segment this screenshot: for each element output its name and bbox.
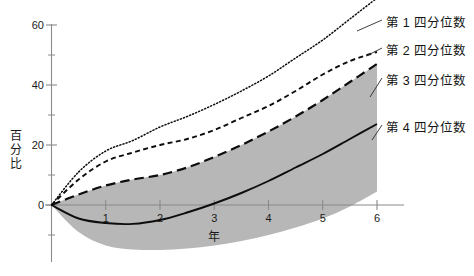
x-tick-label-6: 6 — [374, 212, 380, 224]
legend-item-q2: 第 2 四分位数 — [386, 40, 467, 59]
legend-leader-q2 — [366, 48, 382, 56]
y-tick-label-60: 60 — [32, 19, 44, 31]
legend-item-q4: 第 4 四分位数 — [386, 117, 467, 136]
y-tick-label-0: 0 — [38, 199, 44, 211]
x-axis-title: 年 — [208, 230, 220, 244]
y-axis-title-char-2: 比 — [10, 157, 22, 171]
y-tick-label-20: 20 — [32, 139, 44, 151]
y-axis-title-char-0: 百 — [10, 129, 22, 143]
x-tick-label-2: 2 — [157, 212, 163, 224]
x-tick-label-5: 5 — [320, 212, 326, 224]
legend-item-q3: 第 3 四分位数 — [386, 70, 467, 89]
legend-leader-q1 — [357, 20, 382, 31]
quartile-percentage-chart: 0 20 40 60 1 2 3 4 5 6 年 百 分 比 第 1 四分位数 … — [0, 0, 474, 276]
y-axis-title-char-1: 分 — [10, 143, 22, 157]
y-tick-label-40: 40 — [32, 79, 44, 91]
x-tick-label-4: 4 — [265, 212, 271, 224]
legend-item-q1: 第 1 四分位数 — [386, 12, 467, 31]
x-tick-label-3: 3 — [211, 212, 217, 224]
